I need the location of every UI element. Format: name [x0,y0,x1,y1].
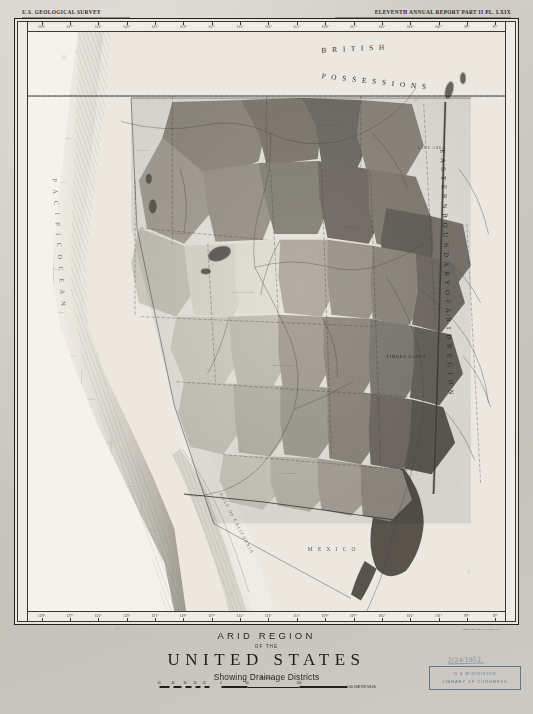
longitude-tick-label: 109° [322,25,329,29]
longitude-tick-mark [155,22,156,25]
longitude-tick-label: 115° [237,25,244,29]
longitude-tick-mark [410,618,411,621]
scale-tick-number: 10 [202,681,205,685]
map-canvas[interactable]: B R I T I S H P O S S E S S I O N S E A … [27,31,505,611]
longitude-tick-mark [155,618,156,621]
header-left-agency: U.S. GEOLOGICAL SURVEY [22,9,101,15]
longitude-tick-mark [268,22,269,25]
longitude-tick-mark [183,618,184,621]
longitude-tick-mark [42,618,43,621]
longitude-tick-label: 101° [435,25,442,29]
scale-label: Scale [159,676,374,680]
scale-tick-number: 40 [171,681,174,685]
label-mexico: M E X I C O [308,547,358,553]
longitude-tick-mark [467,22,468,25]
accession-date-stamp: 2/24/1952 [448,655,481,665]
map-frame-inner: B R I T I S H P O S S E S S I O N S E A … [17,21,515,621]
longitude-tick-mark [127,618,128,621]
map-drawing: B R I T I S H P O S S E S S I O N S E A … [27,31,505,611]
longitude-tick-label: 99° [464,25,469,29]
stamp-division-line: G & M DIVISION [454,670,497,678]
longitude-tick-mark [183,22,184,25]
scale-bar-graphic: 100 STATUTE MILES [159,686,374,689]
scale-bar-group: Scale 5040302010050100 100 STATUTE MILES [159,676,374,689]
longitude-tick-mark [495,618,496,621]
longitude-tick-mark [268,618,269,621]
scale-unit-label: 100 STATUTE MILES [348,685,376,689]
longitude-tick-label: 113° [265,25,272,29]
longitude-tick-mark [382,22,383,25]
longitude-tick-mark [297,22,298,25]
title-of-the: OF THE [0,644,533,649]
longitude-tick-label: 117° [208,25,215,29]
longitude-tick-label: 119° [180,25,187,29]
longitude-tick-mark [325,618,326,621]
longitude-tick-mark [382,618,383,621]
map-sheet: U.S. GEOLOGICAL SURVEY ELEVENTH ANNUAL R… [0,0,533,714]
longitude-tick-mark [212,22,213,25]
longitude-tick-mark [439,618,440,621]
scale-tick-labels: 5040302010050100 [159,681,374,686]
longitude-tick-mark [98,618,99,621]
longitude-tick-mark [410,22,411,25]
longitude-tick-mark [240,618,241,621]
longitude-tick-label: 103° [407,25,414,29]
scale-tick-number: 100 [297,681,302,685]
longitude-tick-label: 129° [38,25,45,29]
longitude-tick-mark [439,22,440,25]
title-arid-region: ARID REGION [0,630,533,641]
map-frame: B R I T I S H P O S S E S S I O N S E A … [14,18,519,625]
longitude-tick-mark [127,22,128,25]
longitude-tick-label: 121° [151,25,158,29]
scale-tick-number: 50 [157,681,160,685]
longitude-tick-label: 105° [378,25,385,29]
graticule-rail-left [18,22,28,620]
longitude-tick-label: 125° [95,25,102,29]
longitude-tick-mark [42,22,43,25]
longitude-tick-mark [98,22,99,25]
longitude-tick-mark [240,22,241,25]
longitude-tick-mark [495,22,496,25]
stamp-library-line: LIBRARY OF CONGRESS [442,678,507,686]
longitude-tick-mark [354,22,355,25]
longitude-tick-label: 107° [350,25,357,29]
library-of-congress-stamp: G & M DIVISION LIBRARY OF CONGRESS [429,666,521,690]
longitude-tick-mark [354,618,355,621]
scale-tick-number: 50 [245,681,248,685]
scale-tick-number: 20 [193,681,196,685]
longitude-tick-mark [467,618,468,621]
scale-tick-number: 30 [183,681,186,685]
longitude-tick-mark [212,618,213,621]
longitude-tick-label: 97° [493,25,498,29]
longitude-tick-mark [297,618,298,621]
longitude-tick-mark [70,22,71,25]
header-right-report: ELEVENTH ANNUAL REPORT PART II PL. LXIX [375,9,511,15]
longitude-tick-label: 111° [293,25,300,29]
longitude-tick-mark [325,22,326,25]
scale-tick-number: 0 [220,681,222,685]
graticule-rail-right [505,22,515,620]
longitude-tick-label: 127° [66,25,73,29]
longitude-tick-mark [70,618,71,621]
longitude-tick-label: 123° [123,25,130,29]
